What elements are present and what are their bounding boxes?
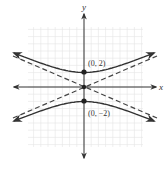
- hyperbola-diagram: y x (0, 2) (0, −2): [0, 0, 168, 170]
- origin-point: [82, 85, 86, 89]
- x-axis-label: x: [158, 82, 163, 92]
- vertex-label-bottom: (0, −2): [88, 109, 110, 118]
- y-axis-label: y: [81, 2, 86, 12]
- vertex-point-top: [81, 69, 86, 74]
- vertex-label-top: (0, 2): [88, 59, 106, 68]
- vertex-point-bottom: [81, 98, 86, 103]
